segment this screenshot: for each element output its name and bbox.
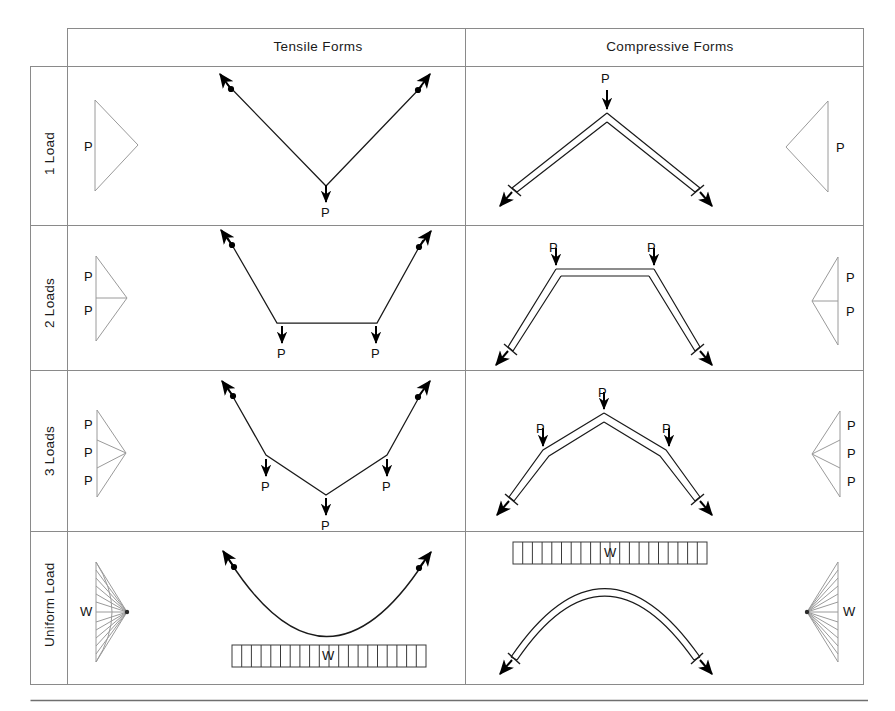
key-fan-lines bbox=[807, 562, 838, 662]
row-4-compressive-key-diagram bbox=[805, 562, 838, 662]
load-label-r2-tensile-1: P bbox=[277, 346, 286, 361]
reaction-arrow-right bbox=[418, 381, 430, 397]
tensile-cable-3 bbox=[228, 388, 423, 495]
table-body-box bbox=[31, 67, 864, 685]
thrust-arrow-right bbox=[700, 192, 712, 206]
row-3-compressive-key-diagram bbox=[812, 411, 840, 497]
key-load-label-r3-tensile-3: P bbox=[84, 473, 93, 488]
row-1-compressive-form bbox=[500, 90, 712, 206]
thrust-arrow-left bbox=[500, 660, 512, 674]
thrust-arrow-left bbox=[500, 192, 512, 206]
reaction-arrow-right bbox=[419, 231, 431, 247]
reaction-arrow-left bbox=[221, 230, 232, 245]
key-load-label-r1-compressive: P bbox=[836, 140, 845, 155]
reaction-arrow-left bbox=[222, 381, 233, 396]
row-2-compressive-key-diagram bbox=[812, 257, 838, 345]
row-3-compressive-form bbox=[497, 392, 712, 515]
row-3-tensile-form bbox=[222, 381, 430, 515]
column-header-compressive: Compressive Forms bbox=[575, 39, 765, 54]
row-1-tensile-key-diagram bbox=[95, 100, 138, 191]
key-load-label-r3-tensile-2: P bbox=[84, 445, 93, 460]
tensile-cable-2 bbox=[228, 238, 423, 323]
key-load-label-r3-compressive-3: P bbox=[847, 474, 856, 489]
row-1-compressive-key-diagram bbox=[786, 101, 828, 192]
key-load-label-r3-tensile-1: P bbox=[84, 417, 93, 432]
thrust-arrow-left bbox=[497, 501, 509, 515]
row-4-compressive-form bbox=[500, 542, 712, 674]
load-label-r2-compressive-1: P bbox=[549, 240, 558, 255]
row-label-uniform-load: Uniform Load bbox=[42, 562, 57, 647]
load-label-r1-compressive: P bbox=[601, 71, 610, 86]
row-2-compressive-form bbox=[496, 248, 712, 365]
key-load-label-r3-compressive-1: P bbox=[847, 418, 856, 433]
key-fan-lines bbox=[96, 562, 127, 662]
row-label-one-load: 1 Load bbox=[42, 132, 57, 175]
thrust-arrow-right bbox=[700, 501, 712, 515]
structural-forms-diagram bbox=[0, 0, 895, 711]
row-4-tensile-key-diagram bbox=[96, 562, 129, 662]
table-grid bbox=[31, 29, 864, 685]
load-label-r2-compressive-2: P bbox=[647, 240, 656, 255]
tensile-cable-1 bbox=[227, 84, 422, 186]
key-load-label-r3-compressive-2: P bbox=[847, 446, 856, 461]
load-label-r3-tensile-3: P bbox=[382, 479, 391, 494]
load-label-r4-tensile: W bbox=[322, 648, 334, 663]
figure-root: Tensile Forms Compressive Forms 1 Load 2… bbox=[0, 0, 895, 711]
load-label-r3-compressive-left: P bbox=[536, 421, 545, 436]
load-label-r2-tensile-2: P bbox=[371, 346, 380, 361]
thrust-arrow-right bbox=[700, 351, 712, 365]
load-label-r4-compressive: W bbox=[604, 545, 616, 560]
key-load-label-r2-tensile-1: P bbox=[84, 269, 93, 284]
reaction-arrow-right bbox=[419, 552, 431, 568]
row-3-tensile-key-diagram bbox=[97, 410, 126, 497]
row-2-tensile-form bbox=[221, 230, 431, 343]
key-load-label-r2-compressive-1: P bbox=[846, 270, 855, 285]
row-2-tensile-key-diagram bbox=[96, 256, 127, 341]
thrust-arrow-left bbox=[496, 351, 508, 365]
load-label-r3-tensile-1: P bbox=[261, 479, 270, 494]
key-load-label-r1-tensile: P bbox=[84, 139, 93, 154]
row-label-two-loads: 2 Loads bbox=[42, 278, 57, 328]
catenary-cable bbox=[229, 560, 424, 637]
row-1-tensile-form bbox=[220, 74, 430, 202]
reaction-arrow-left bbox=[220, 74, 231, 89]
load-label-r3-tensile-2: P bbox=[321, 518, 330, 533]
key-load-label-r2-compressive-2: P bbox=[846, 304, 855, 319]
key-load-label-r4-tensile: W bbox=[80, 604, 92, 619]
load-label-r3-compressive-right: P bbox=[662, 421, 671, 436]
key-load-label-r4-compressive: W bbox=[843, 604, 855, 619]
reaction-arrow-left bbox=[223, 551, 234, 567]
key-load-label-r2-tensile-2: P bbox=[84, 303, 93, 318]
load-label-r1-tensile: P bbox=[321, 205, 330, 220]
load-label-r3-compressive-crown: P bbox=[598, 385, 607, 400]
thrust-arrow-right bbox=[700, 660, 712, 674]
column-header-tensile: Tensile Forms bbox=[228, 39, 408, 54]
reaction-arrow-right bbox=[418, 74, 430, 90]
row-label-three-loads: 3 Loads bbox=[42, 426, 57, 476]
